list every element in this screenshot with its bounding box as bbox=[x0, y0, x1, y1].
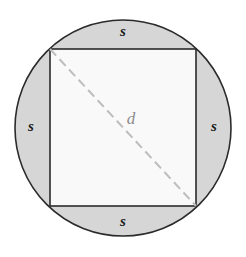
side-label-left: s bbox=[27, 118, 34, 134]
side-label-bottom: s bbox=[119, 213, 126, 229]
diagonal-label: d bbox=[127, 109, 136, 128]
figure-canvas: s s s s d bbox=[0, 0, 246, 257]
side-label-top: s bbox=[119, 23, 126, 39]
geometry-figure: s s s s d bbox=[0, 0, 246, 257]
side-label-right: s bbox=[210, 118, 217, 134]
